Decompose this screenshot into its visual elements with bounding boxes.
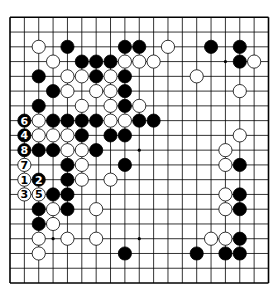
move-number-label: 7 (21, 159, 29, 172)
white-stone (104, 99, 117, 112)
white-stone (248, 55, 261, 68)
star-point (224, 60, 227, 63)
white-stone (32, 40, 45, 53)
white-stone (61, 85, 74, 98)
white-stone (233, 129, 246, 142)
white-stone (61, 129, 74, 142)
white-stone (133, 55, 146, 68)
black-stone (90, 114, 103, 127)
black-stone (61, 158, 74, 171)
white-stone (90, 232, 103, 245)
white-stone (118, 114, 131, 127)
white-stone (32, 129, 45, 142)
black-stone (61, 114, 74, 127)
black-stone (133, 114, 146, 127)
white-stone (75, 158, 88, 171)
black-stone (118, 40, 131, 53)
white-stone (204, 232, 217, 245)
black-stone (233, 232, 246, 245)
move-number-label: 4 (21, 129, 29, 142)
white-stone (133, 99, 146, 112)
go-board: 12345678 (0, 0, 279, 298)
black-stone (75, 114, 88, 127)
black-stone (233, 55, 246, 68)
white-stone (46, 129, 59, 142)
black-stone (32, 217, 45, 230)
black-stone (233, 188, 246, 201)
black-stone (75, 129, 88, 142)
move-number-label: 2 (35, 174, 43, 187)
black-stone (204, 40, 217, 53)
white-stone (219, 188, 232, 201)
white-stone (90, 203, 103, 216)
white-stone (75, 173, 88, 186)
black-stone (118, 99, 131, 112)
black-stone (46, 85, 59, 98)
black-stone (61, 40, 74, 53)
black-stone (147, 114, 160, 127)
black-stone (118, 70, 131, 83)
white-stone (190, 70, 203, 83)
move-number-label: 3 (21, 188, 29, 201)
move-number-label: 1 (21, 174, 29, 187)
star-point (138, 149, 141, 152)
black-stone (219, 247, 232, 260)
white-stone (104, 70, 117, 83)
black-stone (233, 247, 246, 260)
white-stone (104, 114, 117, 127)
white-stone (104, 85, 117, 98)
black-stone (90, 55, 103, 68)
white-stone (61, 144, 74, 157)
white-stone (219, 144, 232, 157)
white-stone (147, 55, 160, 68)
black-stone (90, 144, 103, 157)
black-stone (118, 85, 131, 98)
white-stone (233, 85, 246, 98)
black-stone (32, 203, 45, 216)
white-stone (61, 70, 74, 83)
black-stone (233, 158, 246, 171)
black-stone (233, 40, 246, 53)
white-stone (75, 144, 88, 157)
white-stone (75, 70, 88, 83)
white-stone (46, 203, 59, 216)
move-number-label: 8 (21, 144, 29, 157)
black-stone (118, 158, 131, 171)
black-stone (61, 173, 74, 186)
move-number-label: 6 (21, 115, 29, 128)
move-number-label: 5 (35, 188, 43, 201)
white-stone (161, 40, 174, 53)
black-stone (61, 203, 74, 216)
white-stone (61, 232, 74, 245)
black-stone (104, 55, 117, 68)
black-stone (90, 70, 103, 83)
white-stone (32, 114, 45, 127)
black-stone (46, 144, 59, 157)
white-stone (104, 173, 117, 186)
black-stone (32, 70, 45, 83)
black-stone (46, 114, 59, 127)
star-point (138, 237, 141, 240)
white-stone (219, 203, 232, 216)
white-stone (32, 232, 45, 245)
black-stone (32, 99, 45, 112)
white-stone (46, 217, 59, 230)
white-stone (75, 99, 88, 112)
black-stone (46, 188, 59, 201)
white-stone (90, 85, 103, 98)
white-stone (32, 247, 45, 260)
black-stone (133, 40, 146, 53)
black-stone (118, 247, 131, 260)
black-stone (104, 129, 117, 142)
star-point (51, 237, 54, 240)
black-stone (61, 188, 74, 201)
white-stone (219, 232, 232, 245)
black-stone (190, 247, 203, 260)
black-stone (118, 129, 131, 142)
black-stone (233, 203, 246, 216)
black-stone (32, 144, 45, 157)
white-stone (118, 55, 131, 68)
white-stone (219, 158, 232, 171)
black-stone (75, 55, 88, 68)
white-stone (46, 55, 59, 68)
